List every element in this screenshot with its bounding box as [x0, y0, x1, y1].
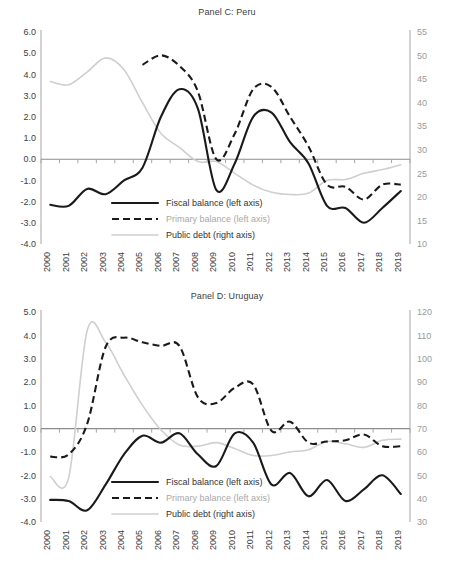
- right-axis-tick-label: 40: [417, 494, 427, 504]
- left-axis-tick-label: 1.0: [23, 133, 36, 143]
- right-axis-tick-label: 10: [417, 239, 427, 249]
- x-axis-tick-label: 2015: [319, 252, 329, 272]
- right-axis-tick-label: 15: [417, 216, 427, 226]
- left-axis-tick-label: -4.0: [20, 239, 36, 249]
- x-axis-tick-label: 2010: [227, 252, 237, 272]
- left-axis-tick-label: 6.0: [23, 27, 36, 37]
- x-axis-tick-label: 2016: [337, 252, 347, 272]
- chart-svg-peru: -4.0-3.0-2.0-1.00.01.02.03.04.05.06.0101…: [0, 0, 454, 285]
- x-axis-tick-label: 2018: [374, 252, 384, 272]
- right-axis-tick-label: 60: [417, 447, 427, 457]
- right-axis-tick-label: 80: [417, 401, 427, 411]
- x-axis-tick-label: 2008: [190, 530, 200, 550]
- left-axis-tick-label: -1.0: [20, 176, 36, 186]
- right-axis-tick-label: 110: [417, 331, 431, 341]
- right-axis-tick-label: 35: [417, 121, 427, 131]
- x-axis-tick-label: 2012: [264, 252, 274, 272]
- right-axis-tick-label: 70: [417, 424, 427, 434]
- x-axis-tick-label: 2012: [264, 530, 274, 550]
- x-axis-tick-label: 2007: [171, 530, 181, 550]
- x-axis-tick-label: 2003: [98, 252, 108, 272]
- x-axis-tick-label: 2014: [301, 252, 311, 272]
- left-axis-tick-label: 5.0: [23, 48, 36, 58]
- x-axis-tick-label: 2003: [98, 530, 108, 550]
- chart-svg-uruguay: -4.0-3.0-2.0-1.00.01.02.03.04.05.0304050…: [0, 285, 454, 570]
- x-axis-tick-label: 2001: [61, 252, 71, 272]
- left-axis-tick-label: 1.0: [23, 401, 36, 411]
- x-axis-tick-label: 2004: [116, 530, 126, 550]
- right-axis-tick-label: 120: [417, 307, 432, 317]
- right-axis-tick-label: 30: [417, 145, 427, 155]
- x-axis-tick-label: 2016: [337, 530, 347, 550]
- x-axis-tick-label: 2001: [61, 530, 71, 550]
- x-axis-tick-label: 2014: [301, 530, 311, 550]
- series-public-debt: [50, 58, 401, 195]
- x-axis-tick-label: 2004: [116, 252, 126, 272]
- legend-label: Primary balance (left axis): [166, 493, 270, 503]
- right-axis-tick-label: 30: [417, 517, 427, 527]
- left-axis-tick-label: 4.0: [23, 70, 36, 80]
- x-axis-tick-label: 2007: [171, 252, 181, 272]
- x-axis-tick-label: 2015: [319, 530, 329, 550]
- x-axis-tick-label: 2019: [393, 530, 403, 550]
- right-axis-tick-label: 100: [417, 354, 432, 364]
- left-axis-tick-label: -3.0: [20, 218, 36, 228]
- right-axis-tick-label: 20: [417, 192, 427, 202]
- left-axis-tick-label: 3.0: [23, 354, 36, 364]
- left-axis-tick-label: 4.0: [23, 331, 36, 341]
- left-axis-tick-label: 5.0: [23, 307, 36, 317]
- left-axis-tick-label: -4.0: [20, 517, 36, 527]
- x-axis-tick-label: 2017: [356, 252, 366, 272]
- legend-label: Fiscal balance (left axis): [166, 198, 263, 208]
- x-axis-tick-label: 2009: [208, 530, 218, 550]
- left-axis-tick-label: -2.0: [20, 197, 36, 207]
- x-axis-tick-label: 2011: [245, 530, 255, 549]
- right-axis-tick-label: 50: [417, 471, 427, 481]
- series-primary-balance: [50, 337, 401, 457]
- series-primary-balance: [142, 55, 400, 199]
- x-axis-tick-label: 2002: [79, 530, 89, 550]
- left-axis-tick-label: -1.0: [20, 447, 36, 457]
- x-axis-tick-label: 2011: [245, 252, 255, 271]
- x-axis-tick-label: 2008: [190, 252, 200, 272]
- x-axis-tick-label: 2006: [153, 530, 163, 550]
- series-public-debt: [50, 322, 401, 488]
- left-axis-tick-label: 2.0: [23, 377, 36, 387]
- chart-panel-uruguay: Panel D: Uruguay -4.0-3.0-2.0-1.00.01.02…: [0, 285, 454, 570]
- x-axis-tick-label: 2019: [393, 252, 403, 272]
- left-axis-tick-label: 0.0: [23, 154, 36, 164]
- right-axis-tick-label: 55: [417, 27, 427, 37]
- right-axis-tick-label: 50: [417, 51, 427, 61]
- x-axis-tick-label: 2006: [153, 252, 163, 272]
- legend-label: Public debt (right axis): [166, 230, 255, 240]
- left-axis-tick-label: 2.0: [23, 112, 36, 122]
- x-axis-tick-label: 2013: [282, 530, 292, 550]
- left-axis-tick-label: 3.0: [23, 91, 36, 101]
- left-axis-tick-label: -2.0: [20, 471, 36, 481]
- right-axis-tick-label: 90: [417, 377, 427, 387]
- x-axis-tick-label: 2010: [227, 530, 237, 550]
- x-axis-tick-label: 2005: [134, 252, 144, 272]
- right-axis-tick-label: 40: [417, 98, 427, 108]
- x-axis-tick-label: 2009: [208, 252, 218, 272]
- legend-label: Public debt (right axis): [166, 509, 255, 519]
- x-axis-tick-label: 2017: [356, 530, 366, 550]
- x-axis-tick-label: 2002: [79, 252, 89, 272]
- right-axis-tick-label: 45: [417, 74, 427, 84]
- x-axis-tick-label: 2000: [42, 252, 52, 272]
- right-axis-tick-label: 25: [417, 169, 427, 179]
- x-axis-tick-label: 2013: [282, 252, 292, 272]
- x-axis-tick-label: 2000: [42, 530, 52, 550]
- x-axis-tick-label: 2005: [134, 530, 144, 550]
- left-axis-tick-label: 0.0: [23, 424, 36, 434]
- x-axis-tick-label: 2018: [374, 530, 384, 550]
- chart-panel-peru: Panel C: Peru -4.0-3.0-2.0-1.00.01.02.03…: [0, 0, 454, 285]
- legend-label: Primary balance (left axis): [166, 214, 270, 224]
- left-axis-tick-label: -3.0: [20, 494, 36, 504]
- legend-label: Fiscal balance (left axis): [166, 477, 263, 487]
